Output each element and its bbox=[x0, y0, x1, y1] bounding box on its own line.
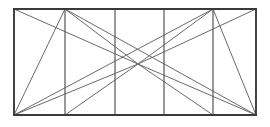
figure-container bbox=[0, 0, 270, 127]
line-diagram-canvas bbox=[0, 0, 270, 127]
diagram-background bbox=[0, 0, 270, 127]
